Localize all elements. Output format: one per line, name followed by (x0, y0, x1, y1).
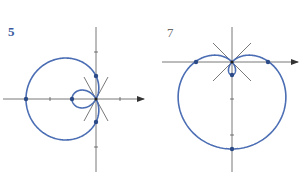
marked-point (230, 73, 234, 77)
marked-point (70, 97, 74, 101)
marked-point (94, 74, 98, 78)
marked-point (266, 60, 270, 64)
diagram-canvas (0, 0, 301, 180)
marked-point (94, 120, 98, 124)
figure-5 (3, 27, 144, 172)
marked-point (24, 97, 28, 101)
figure-7 (162, 27, 298, 172)
origin-point (94, 97, 97, 100)
origin-point (230, 60, 233, 63)
marked-point (194, 60, 198, 64)
marked-point (230, 147, 234, 151)
